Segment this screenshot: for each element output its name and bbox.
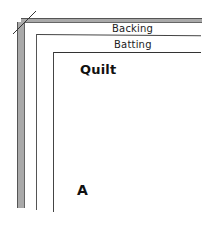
quilt-label: Quilt bbox=[80, 62, 116, 77]
quilt-edge-left bbox=[53, 52, 54, 212]
corner-marker-a: A bbox=[77, 182, 88, 198]
batting-label: Batting bbox=[114, 39, 152, 50]
backing-label: Backing bbox=[112, 23, 153, 34]
quilt-edge-top bbox=[53, 52, 201, 53]
batting-edge-left bbox=[36, 34, 37, 210]
